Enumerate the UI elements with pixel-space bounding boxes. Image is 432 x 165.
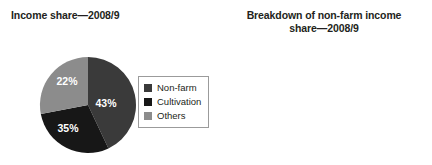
legend-label-cultivation: Cultivation [157, 96, 201, 107]
pie-chart-figure: Income share—2008/9 43% 35% 22% Non-farm [0, 0, 432, 165]
panel-non-farm-breakdown: Breakdown of non-farm income share—2008/… [216, 0, 432, 165]
left-legend: Non-farm Cultivation Others [138, 76, 209, 128]
left-label-cultivation: 35% [57, 122, 79, 134]
left-label-non-farm: 43% [95, 97, 117, 109]
swatch-non-farm-icon [144, 84, 152, 92]
legend-item-cultivation: Cultivation [144, 96, 208, 107]
right-chart-title: Breakdown of non-farm income share—2008/… [216, 9, 432, 35]
legend-item-non-farm: Non-farm [144, 82, 208, 93]
legend-item-others: Others [144, 110, 208, 121]
left-pie-svg: 43% 35% 22% [38, 55, 138, 155]
left-chart-title: Income share—2008/9 [11, 9, 119, 22]
swatch-others-icon [144, 112, 152, 120]
swatch-cultivation-icon [144, 98, 152, 106]
left-pie-chart: 43% 35% 22% [38, 55, 138, 159]
legend-label-others: Others [157, 110, 186, 121]
panel-income-share: Income share—2008/9 43% 35% 22% Non-farm [0, 0, 216, 165]
left-label-others: 22% [56, 75, 78, 87]
legend-label-non-farm: Non-farm [157, 82, 197, 93]
